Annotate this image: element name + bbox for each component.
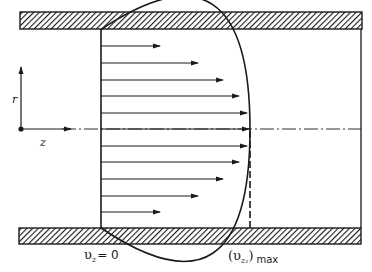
velocity-arrows — [101, 46, 249, 212]
parabolic-velocity-curve — [101, 0, 250, 261]
max-velocity-label: (υz₁)max — [228, 248, 278, 265]
bottom-pipe-wall — [19, 228, 361, 244]
wall-velocity-label: υz= 0 — [84, 247, 119, 264]
top-pipe-wall — [20, 12, 362, 29]
velocity-profile-diagram: r z υz= 0 (υz₁)max — [0, 0, 372, 272]
r-axis-label: r — [12, 93, 18, 106]
z-axis-label: z — [39, 136, 46, 149]
